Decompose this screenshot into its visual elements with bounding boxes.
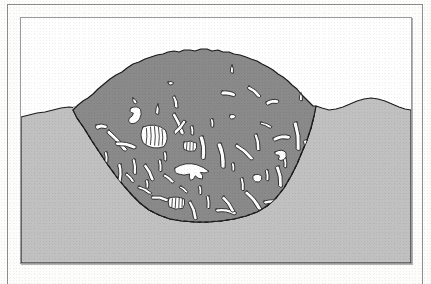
bone-fragment bbox=[265, 170, 269, 181]
bone-fragment bbox=[145, 180, 149, 189]
bone-fragment bbox=[190, 126, 194, 135]
bone-fragment bbox=[198, 186, 202, 195]
figure-frame bbox=[20, 17, 412, 264]
bone-fragment bbox=[168, 81, 174, 85]
rib-cluster-hatched bbox=[141, 125, 167, 148]
scanned-page bbox=[0, 0, 431, 284]
rib-cluster-hatched bbox=[168, 197, 185, 209]
bone-fragment bbox=[206, 196, 210, 209]
bone-fragment bbox=[231, 163, 235, 172]
bone-fragment bbox=[158, 160, 162, 172]
bone-fragment bbox=[163, 152, 167, 161]
page-rule-top bbox=[7, 4, 423, 5]
bone-fragment bbox=[299, 93, 302, 101]
page-rule-right bbox=[422, 4, 423, 284]
vertebra bbox=[183, 141, 196, 151]
bone-fragment bbox=[210, 119, 214, 128]
page-rule-left bbox=[7, 4, 8, 284]
vertebra bbox=[229, 114, 235, 119]
vertebra bbox=[253, 174, 262, 182]
caption-sliver bbox=[20, 272, 410, 281]
bone-fragment bbox=[230, 65, 233, 73]
cross-section-diagram bbox=[21, 18, 411, 263]
